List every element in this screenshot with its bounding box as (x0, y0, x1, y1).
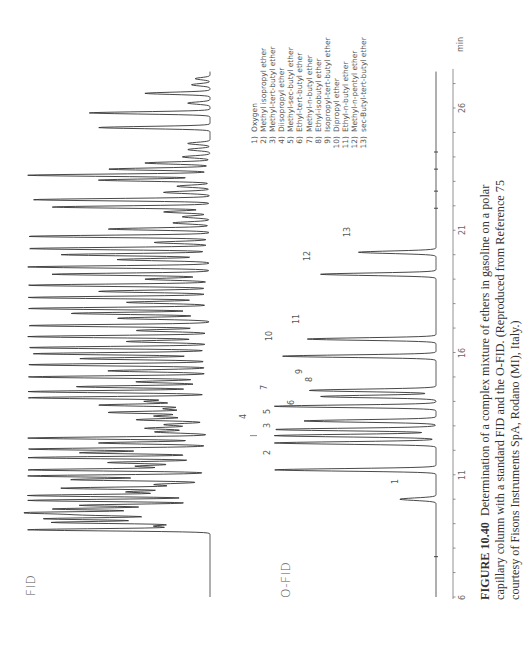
legend-item: 8)Ethyl-isobutyl ether (314, 37, 323, 150)
axis-tick-label: 21 (458, 225, 467, 235)
legend-item-name: Methyl-n-pentyl ether (350, 51, 359, 132)
legend-item-name: Methyl-n-butyl ether (305, 55, 314, 132)
legend-item: 12)Methyl-n-pentyl ether (350, 37, 359, 150)
peak-label-3: 3 (263, 423, 272, 428)
legend-item-number: 6) (295, 136, 304, 150)
legend-item-name: sec-Butyl-tert-butyl ether (359, 37, 368, 132)
peak-label-11: 11 (292, 314, 301, 324)
peak-label-10: 10 (265, 331, 274, 341)
chromatogram-figure: FID O-FID 12345678910111213 611162126 mi… (0, 0, 530, 651)
caption-line-2: capillary column with a standard FID and… (493, 40, 508, 600)
legend-item-number: 7) (305, 136, 314, 150)
legend-item-name: Methyl isopropyl ether (259, 48, 268, 132)
legend-item-number: 5) (286, 136, 295, 150)
caption-label: FIGURE 10.40 (478, 522, 492, 600)
legend-item-number: 8) (314, 136, 323, 150)
legend-item-name: Methyl-tert-butyl ether (268, 46, 277, 132)
legend-item: 4)Diisopropyl ether (277, 37, 286, 150)
legend-item-number: 12) (350, 136, 359, 150)
peak-label-4: 4 (239, 414, 248, 419)
axis-tick-label: 11 (458, 470, 467, 480)
legend-item-number: 11) (341, 136, 350, 150)
legend-item-name: Ethyl-n-butyl ether (341, 62, 350, 133)
legend-item-number: 4) (277, 136, 286, 150)
axis-tick-label: 6 (458, 595, 467, 600)
legend-item-number: 1) (250, 136, 259, 150)
ofid-trace (250, 72, 438, 597)
legend-item: 7)Methyl-n-butyl ether (305, 37, 314, 150)
legend-item: 6)Ethyl-tert-butyl ether (295, 37, 304, 150)
legend-item-number: 3) (268, 136, 277, 150)
peak-label-9: 9 (295, 369, 304, 374)
legend-item-name: Isopropyl-tert-butyl ether (323, 37, 332, 132)
figure-caption: FIGURE 10.40 Determination of a complex … (478, 40, 523, 600)
legend-item: 3)Methyl-tert-butyl ether (268, 37, 277, 150)
ofid-label: O-FID (279, 562, 293, 598)
legend-item: 9)Isopropyl-tert-butyl ether (323, 37, 332, 150)
legend-item-name: Ethyl-isobutyl ether (314, 58, 323, 132)
legend-item: 13)sec-Butyl-tert-butyl ether (359, 37, 368, 150)
legend-item-name: Diisopropyl ether (277, 68, 286, 132)
legend-item: 10)Dipropyl ether (332, 37, 341, 150)
peak-label-2: 2 (263, 450, 272, 455)
legend-item-name: Dipropyl ether (332, 78, 341, 132)
caption-line-3: courtesy of Fisons Instruments SpA, Roda… (508, 40, 523, 600)
peak-label-1: 1 (391, 479, 400, 484)
legend-item: 11)Ethyl-n-butyl ether (341, 37, 350, 150)
legend-item: 5)Methyl-sec-butyl ether (286, 37, 295, 150)
fid-label: FID (24, 575, 38, 596)
peak-label-12: 12 (303, 251, 312, 261)
peak-label-6: 6 (287, 400, 296, 405)
peak-label-13: 13 (343, 227, 352, 237)
axis-unit-label: min (456, 37, 465, 52)
peak-label-5: 5 (263, 409, 272, 414)
legend-item-name: Ethyl-tert-butyl ether (295, 53, 304, 132)
time-axis (453, 69, 456, 599)
axis-tick-label: 26 (458, 103, 467, 113)
legend-item: 2)Methyl isopropyl ether (259, 37, 268, 150)
legend-item-name: Methyl-sec-butyl ether (286, 47, 295, 132)
legend-item-name: Oxygen (250, 103, 259, 132)
legend-item-number: 10) (332, 136, 341, 150)
peak-label-8: 8 (305, 377, 314, 382)
legend-item-number: 13) (359, 136, 368, 150)
legend-item-number: 9) (323, 136, 332, 150)
legend-item-number: 2) (259, 136, 268, 150)
peak-label-7: 7 (260, 385, 269, 390)
legend: 1)Oxygen2)Methyl isopropyl ether3)Methyl… (250, 37, 368, 150)
fid-trace (24, 72, 210, 597)
caption-line-1: FIGURE 10.40 Determination of a complex … (478, 40, 493, 600)
legend-item: 1)Oxygen (250, 37, 259, 150)
axis-tick-label: 16 (458, 348, 467, 358)
